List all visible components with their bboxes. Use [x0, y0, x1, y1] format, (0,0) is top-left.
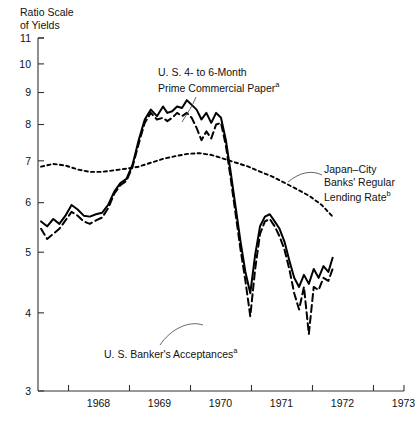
svg-text:6: 6 [25, 196, 31, 208]
svg-text:1971: 1971 [270, 397, 294, 409]
footnote-marker-a2: a [233, 346, 237, 355]
annotation-commercial-paper-line2: Prime Commercial Papera [158, 79, 279, 94]
svg-text:1970: 1970 [209, 397, 233, 409]
footnote-marker-a: a [275, 80, 279, 89]
svg-text:7: 7 [25, 155, 31, 167]
svg-text:9: 9 [25, 86, 31, 98]
svg-text:5: 5 [25, 246, 31, 258]
annotation-japan-line3: Lending Rateb [324, 188, 395, 203]
annotation-commercial-paper: U. S. 4- to 6-Month Prime Commercial Pap… [158, 66, 279, 94]
footnote-marker-b: b [386, 189, 390, 198]
svg-text:11: 11 [20, 32, 31, 44]
annotation-bankers-acceptances: U. S. Banker's Acceptancesa [104, 345, 237, 360]
svg-text:3: 3 [25, 385, 31, 397]
annotation-commercial-paper-line1: U. S. 4- to 6-Month [158, 66, 279, 79]
svg-text:1969: 1969 [148, 397, 172, 409]
annotation-japan-lending-rate: Japan–City Banks' Regular Lending Rateb [324, 163, 395, 203]
chart-series-lines [41, 100, 333, 334]
svg-text:1968: 1968 [87, 397, 111, 409]
svg-text:4: 4 [25, 307, 31, 319]
yields-ratio-scale-chart: Ratio Scale of Yields 345678910111968196… [0, 0, 415, 421]
svg-text:8: 8 [25, 118, 31, 130]
annotation-japan-line2: Banks' Regular [324, 176, 395, 189]
annotation-bankers-acceptances-line1: U. S. Banker's Acceptancesa [104, 345, 237, 360]
svg-text:10: 10 [19, 58, 31, 70]
svg-text:1972: 1972 [331, 397, 355, 409]
annotation-japan-line1: Japan–City [324, 163, 395, 176]
svg-text:1973: 1973 [392, 397, 415, 409]
